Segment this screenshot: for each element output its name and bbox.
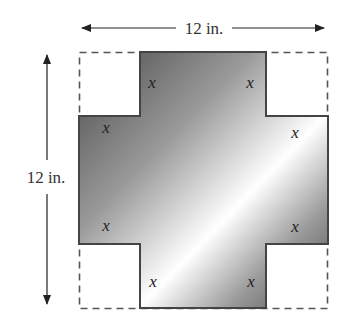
cut-label-bottom-left-horizontal: x [101, 216, 110, 235]
height-label: 12 in. [27, 168, 66, 187]
cut-label-top-left-vertical: x [147, 73, 156, 92]
width-dimension: 12 in. [82, 19, 324, 38]
cut-label-bottom-right-horizontal: x [290, 217, 299, 236]
cut-corners-diagram: 12 in. 12 in. x x x x x x x x [0, 0, 347, 324]
height-dimension: 12 in. [27, 55, 66, 304]
width-label: 12 in. [185, 19, 224, 38]
cut-label-top-right-vertical: x [245, 73, 254, 92]
cut-label-top-left-horizontal: x [101, 118, 110, 137]
cut-label-bottom-left-vertical: x [148, 272, 157, 291]
cut-label-bottom-right-vertical: x [246, 272, 255, 291]
cut-label-top-right-horizontal: x [290, 123, 299, 142]
cross-shape [79, 52, 328, 308]
